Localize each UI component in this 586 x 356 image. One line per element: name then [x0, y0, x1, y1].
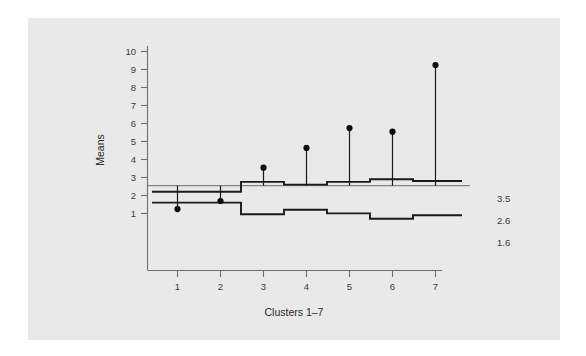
point-cluster-3	[260, 165, 266, 171]
y-tick-label-10: 10	[125, 46, 136, 57]
y-tick-label-3: 3	[131, 172, 136, 183]
chart-canvas: 10 9 8 7 6 5 4 3 2 1 1 2 3 4 5	[0, 0, 586, 356]
x-axis-tick-labels: 1 2 3 4 5 6 7	[175, 281, 438, 292]
lower-step-line	[152, 203, 462, 219]
y-tick-label-8: 8	[131, 82, 136, 93]
x-axis-title: Clusters 1–7	[265, 306, 324, 318]
point-cluster-6	[389, 129, 395, 135]
y-axis-ticks	[141, 52, 148, 214]
right-label-1-6: 1.6	[497, 237, 510, 248]
cluster-mean-stems	[178, 65, 436, 209]
y-tick-label-9: 9	[131, 64, 136, 75]
figure-page: 10 9 8 7 6 5 4 3 2 1 1 2 3 4 5	[0, 0, 586, 356]
x-tick-label-7: 7	[433, 281, 438, 292]
y-tick-label-6: 6	[131, 118, 136, 129]
y-tick-label-4: 4	[131, 154, 136, 165]
x-axis-ticks	[178, 271, 436, 278]
y-tick-label-1: 1	[131, 208, 136, 219]
x-tick-label-3: 3	[261, 281, 266, 292]
x-tick-label-6: 6	[390, 281, 395, 292]
point-cluster-2	[217, 198, 223, 204]
y-axis-tick-labels: 10 9 8 7 6 5 4 3 2 1	[125, 46, 136, 219]
y-axis-title: Means	[94, 134, 106, 166]
right-reference-labels: 3.5 2.6 1.6	[497, 193, 510, 248]
y-tick-label-2: 2	[131, 190, 136, 201]
x-tick-label-5: 5	[347, 281, 352, 292]
right-label-2-6: 2.6	[497, 215, 510, 226]
y-tick-label-5: 5	[131, 136, 136, 147]
cluster-mean-points	[174, 62, 438, 212]
point-cluster-7	[432, 62, 438, 68]
point-cluster-1	[174, 206, 180, 212]
right-label-3-5: 3.5	[497, 193, 510, 204]
point-cluster-5	[346, 125, 352, 131]
y-tick-label-7: 7	[131, 100, 136, 111]
x-tick-label-1: 1	[175, 281, 180, 292]
x-tick-label-2: 2	[218, 281, 223, 292]
point-cluster-4	[303, 145, 309, 151]
x-tick-label-4: 4	[304, 281, 309, 292]
